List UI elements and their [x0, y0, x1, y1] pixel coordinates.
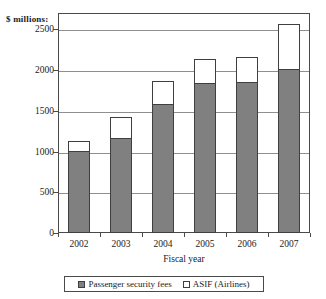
y-axis-tick-label: 500: [20, 187, 54, 197]
bar-group[interactable]: [152, 81, 174, 233]
legend-label: ASIF (Airlines): [193, 279, 250, 289]
legend-entry[interactable]: ASIF (Airlines): [183, 279, 250, 289]
x-axis-tick-mark: [226, 233, 227, 237]
bar-segment-asif-airlines[interactable]: [152, 81, 174, 105]
y-axis-tick-label: 2500: [20, 24, 54, 34]
x-axis-tick-label: 2002: [59, 239, 99, 249]
chart-legend: Passenger security feesASIF (Airlines): [64, 276, 264, 292]
bar-segment-passenger-security-fees[interactable]: [236, 82, 258, 233]
chart-container: $ millions: 05001000150020002500 2002200…: [0, 0, 326, 299]
bar-group[interactable]: [68, 141, 90, 233]
x-axis-tick-label: 2007: [269, 239, 309, 249]
bar-segment-asif-airlines[interactable]: [236, 57, 258, 83]
bar-segment-asif-airlines[interactable]: [194, 59, 216, 84]
bar-group[interactable]: [278, 24, 300, 233]
bar-segment-asif-airlines[interactable]: [68, 141, 90, 152]
bar-segment-passenger-security-fees[interactable]: [278, 69, 300, 233]
x-axis-tick-mark: [58, 233, 59, 237]
x-axis-tick-mark: [310, 233, 311, 237]
bar-segment-passenger-security-fees[interactable]: [194, 83, 216, 233]
y-axis-unit-label: $ millions:: [6, 14, 48, 24]
bar-segment-asif-airlines[interactable]: [110, 117, 132, 138]
legend-label: Passenger security fees: [88, 279, 171, 289]
x-axis-title: Fiscal year: [58, 254, 310, 264]
legend-swatch-icon: [78, 281, 85, 288]
bar-group[interactable]: [110, 117, 132, 233]
bar-series-layer: [58, 13, 310, 233]
x-axis-tick-label: 2004: [143, 239, 183, 249]
bar-segment-asif-airlines[interactable]: [278, 24, 300, 70]
x-axis-tick-mark: [184, 233, 185, 237]
legend-swatch-icon: [183, 281, 190, 288]
bar-group[interactable]: [194, 59, 216, 233]
x-axis-tick-mark: [100, 233, 101, 237]
x-axis-tick-mark: [268, 233, 269, 237]
x-axis-tick-label: 2005: [185, 239, 225, 249]
bar-segment-passenger-security-fees[interactable]: [110, 138, 132, 233]
y-axis-tick-label: 0: [20, 228, 54, 238]
y-axis-tick-label: 2000: [20, 65, 54, 75]
x-axis-tick-label: 2006: [227, 239, 267, 249]
bar-group[interactable]: [236, 57, 258, 233]
y-axis-tick-label: 1000: [20, 147, 54, 157]
legend-entry[interactable]: Passenger security fees: [78, 279, 171, 289]
x-axis-tick-label: 2003: [101, 239, 141, 249]
y-axis-tick-label: 1500: [20, 106, 54, 116]
bar-segment-passenger-security-fees[interactable]: [68, 151, 90, 233]
x-axis-tick-mark: [142, 233, 143, 237]
bar-segment-passenger-security-fees[interactable]: [152, 104, 174, 233]
